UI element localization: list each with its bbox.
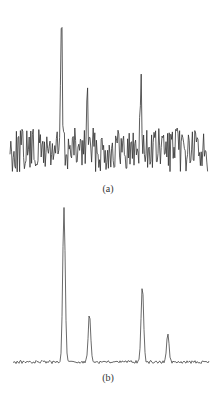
panel-label-a: (a): [88, 183, 128, 194]
spectrum-chart: [0, 0, 224, 407]
panel-label-b: (b): [88, 372, 128, 383]
noisy-trace-a: [10, 28, 208, 172]
denoised-trace-b: [13, 208, 209, 364]
